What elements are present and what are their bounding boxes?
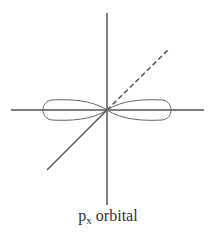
label-suffix: orbital [92, 207, 138, 224]
z-axis-back-dashed [107, 50, 168, 110]
orbital-label: px orbital [0, 207, 216, 226]
px-orbital-diagram [0, 0, 216, 238]
z-axis-front [47, 110, 107, 170]
